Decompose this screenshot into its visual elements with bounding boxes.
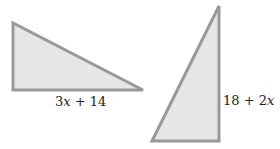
right-triangle-height-label: 18 + 2x <box>223 93 275 108</box>
triangles-diagram: 3x + 14 18 + 2x <box>0 0 280 149</box>
left-triangle <box>13 23 143 90</box>
right-triangle <box>152 6 219 141</box>
left-triangle-base-label: 3x + 14 <box>55 94 106 109</box>
